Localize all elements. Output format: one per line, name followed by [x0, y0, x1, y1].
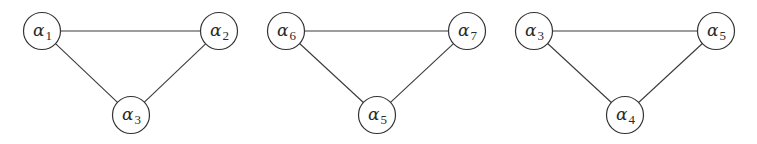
node-a5: α5: [698, 13, 735, 50]
node-a5: α5: [359, 97, 396, 134]
edge-a1-a3: [56, 44, 118, 103]
node-a1: α1: [24, 13, 61, 50]
node-subscript: 5: [380, 112, 387, 127]
node-subscript: 7: [470, 28, 477, 43]
graphs-root: α1α2α3α6α7α5α3α5α4: [24, 13, 735, 134]
node-a3: α3: [516, 13, 553, 50]
diagram-canvas: α1α2α3α6α7α5α3α5α4: [0, 0, 757, 144]
node-a2: α2: [201, 13, 238, 50]
graph-3: α3α5α4: [516, 13, 735, 134]
node-subscript: 3: [537, 28, 544, 43]
node-a3: α3: [113, 97, 150, 134]
node-symbol: α: [122, 104, 134, 124]
graph-2: α6α7α5: [268, 13, 486, 134]
node-symbol: α: [277, 20, 289, 40]
node-a7: α7: [449, 13, 486, 50]
node-symbol: α: [368, 104, 380, 124]
node-subscript: 4: [628, 112, 635, 127]
edge-a6-a5: [300, 44, 364, 103]
edge-a3-a4: [548, 44, 612, 103]
graph-1: α1α2α3: [24, 13, 238, 134]
node-symbol: α: [33, 20, 45, 40]
node-subscript: 6: [289, 28, 296, 43]
edge-a7-a5: [391, 44, 454, 103]
node-subscript: 5: [719, 28, 726, 43]
node-subscript: 2: [222, 28, 229, 43]
node-symbol: α: [616, 104, 628, 124]
node-subscript: 1: [45, 28, 52, 43]
node-symbol: α: [210, 20, 222, 40]
node-symbol: α: [525, 20, 537, 40]
node-a6: α6: [268, 13, 305, 50]
node-symbol: α: [458, 20, 470, 40]
edge-a5-a4: [639, 44, 703, 103]
node-subscript: 3: [134, 112, 141, 127]
edge-a2-a3: [144, 44, 205, 102]
node-a4: α4: [607, 97, 644, 134]
node-symbol: α: [707, 20, 719, 40]
